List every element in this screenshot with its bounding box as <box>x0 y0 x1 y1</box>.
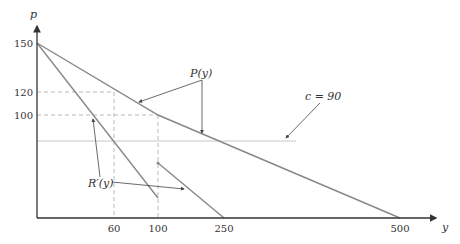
y-tick-100: 100 <box>14 110 33 121</box>
x-tick-250: 250 <box>214 223 233 234</box>
mr-arrow-2 <box>112 182 184 189</box>
economics-diagram: p y 150 120 100 60 100 250 500 P(y) c = … <box>0 0 460 244</box>
marginal-revenue-segment-2 <box>158 163 224 218</box>
cost-annotation: c = 90 <box>286 90 341 138</box>
y-tick-120: 120 <box>14 87 33 98</box>
mr-arrow-1 <box>93 119 100 177</box>
mr-label: R′(y) <box>87 177 114 190</box>
cost-arrow <box>286 103 320 138</box>
cost-label: c = 90 <box>305 90 341 103</box>
mr-annotation: R′(y) <box>87 119 184 190</box>
discontinuity-point <box>157 162 160 165</box>
marginal-revenue-segment-1 <box>37 43 158 198</box>
x-tick-60: 60 <box>108 223 121 234</box>
y-tick-150: 150 <box>14 38 33 49</box>
x-tick-100: 100 <box>148 223 167 234</box>
demand-curve <box>37 43 400 218</box>
x-tick-500: 500 <box>390 223 409 234</box>
demand-arrow-1 <box>139 80 202 102</box>
demand-label: P(y) <box>189 67 212 80</box>
y-axis-label: p <box>30 8 37 21</box>
x-axis-label: y <box>441 221 449 234</box>
